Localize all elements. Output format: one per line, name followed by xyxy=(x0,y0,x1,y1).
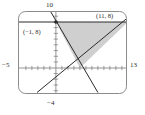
x-axis-min-label: −5 xyxy=(2,62,9,69)
point-marker-left xyxy=(54,20,58,24)
y-axis-max-label: 10 xyxy=(46,2,53,9)
math-graph-figure: 10 −5 13 −4 (−1, 8) (11, 8) xyxy=(0,0,145,115)
y-axis-min-label: −4 xyxy=(47,100,54,107)
x-axis-max-label: 13 xyxy=(130,62,137,69)
point-label-left: (−1, 8) xyxy=(23,29,41,36)
point-label-right: (11, 8) xyxy=(96,13,113,20)
coordinate-plane xyxy=(0,0,145,115)
